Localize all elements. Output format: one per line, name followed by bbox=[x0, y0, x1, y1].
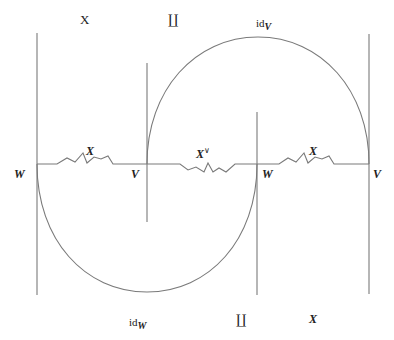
strand-label-x-1: X bbox=[86, 145, 94, 157]
top-label-x: X bbox=[80, 13, 89, 26]
node-label-w-left: W bbox=[14, 168, 25, 180]
subscript-v: V bbox=[265, 21, 272, 32]
horizontal-strand-segment-2 bbox=[147, 163, 257, 172]
bottom-label-coproduct: ∐ bbox=[236, 313, 246, 326]
bottom-label-id-w: idW bbox=[129, 313, 146, 329]
id-text: id bbox=[129, 316, 138, 328]
strand-label-x-3: X bbox=[309, 145, 317, 157]
node-label-w-middle: W bbox=[262, 168, 273, 180]
id-text: id bbox=[256, 17, 265, 29]
upper-arc-identity-v bbox=[147, 37, 369, 164]
top-label-coproduct: ∐ bbox=[168, 13, 178, 26]
strand-label-x-dual: X∨ bbox=[196, 145, 210, 161]
dual-superscript: ∨ bbox=[204, 146, 210, 155]
top-label-id-v: idV bbox=[256, 14, 271, 30]
x-text: X bbox=[196, 147, 204, 161]
bottom-label-x: X bbox=[309, 313, 317, 325]
node-label-v-right: V bbox=[373, 168, 381, 180]
node-label-v-middle: V bbox=[131, 168, 139, 180]
string-diagram bbox=[0, 0, 394, 340]
subscript-w: W bbox=[138, 320, 147, 331]
